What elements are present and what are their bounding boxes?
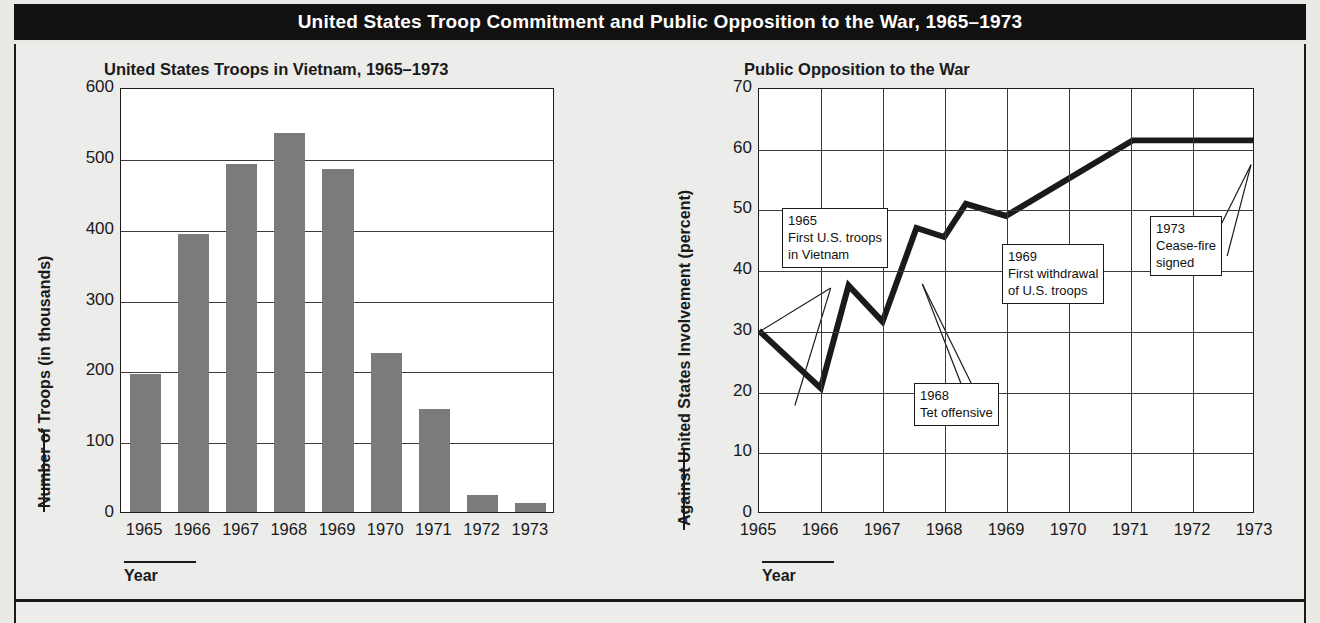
caption-band xyxy=(14,603,1306,623)
annotation-1965-year: 1965 xyxy=(788,212,882,229)
annotation-leader-line xyxy=(795,288,831,405)
annotation-1965-line1: First U.S. troops xyxy=(788,229,882,246)
line-chart-x-tick: 1968 xyxy=(914,520,974,539)
page-title-banner: United States Troop Commitment and Publi… xyxy=(14,4,1306,40)
line-chart-y-axis-label: Against United States Involvement (perce… xyxy=(676,190,694,526)
line-chart-y-tick: 10 xyxy=(698,441,752,461)
bar-chart-x-tick: 1971 xyxy=(409,520,457,539)
bar-chart-x-tick: 1970 xyxy=(361,520,409,539)
bar-chart-y-axis-rule xyxy=(43,430,45,512)
bar-chart-gridline xyxy=(121,160,553,161)
line-chart-y-tick: 40 xyxy=(698,259,752,279)
bar-chart-x-tick: 1966 xyxy=(168,520,216,539)
line-chart-y-tick: 20 xyxy=(698,381,752,401)
annotation-1969: 1969 First withdrawal of U.S. troops xyxy=(1002,244,1104,304)
line-chart-panel: Public Opposition to the War Against Uni… xyxy=(664,48,1310,600)
bar xyxy=(178,234,209,512)
bar-chart-panel: United States Troops in Vietnam, 1965–19… xyxy=(16,48,662,600)
line-chart-x-tick: 1967 xyxy=(852,520,912,539)
line-chart-x-tick: 1971 xyxy=(1100,520,1160,539)
annotation-1968: 1968 Tet offensive xyxy=(914,383,999,426)
line-chart-gridline-h xyxy=(759,453,1253,454)
line-chart-x-axis-rule xyxy=(762,561,834,563)
bar-chart-y-tick: 100 xyxy=(60,431,114,451)
caption-divider xyxy=(14,599,1306,602)
annotation-1973-year: 1973 xyxy=(1156,220,1216,237)
annotation-1973: 1973 Cease-fire signed xyxy=(1150,216,1222,276)
bar xyxy=(371,353,402,512)
line-chart-y-tick: 50 xyxy=(698,198,752,218)
annotation-1969-line1: First withdrawal xyxy=(1008,265,1098,282)
bar-chart-x-tick: 1965 xyxy=(120,520,168,539)
bar xyxy=(322,169,353,512)
line-chart-gridline-h xyxy=(759,393,1253,394)
bar-chart-x-axis-label: Year xyxy=(124,567,158,585)
bar-chart-x-tick: 1973 xyxy=(506,520,554,539)
annotation-1973-line1: Cease-fire xyxy=(1156,237,1216,254)
line-chart-gridline-h xyxy=(759,150,1253,151)
bar xyxy=(467,495,498,512)
bar xyxy=(515,503,546,512)
line-chart-x-tick: 1973 xyxy=(1224,520,1284,539)
bar-chart-y-tick: 200 xyxy=(60,360,114,380)
bar-chart-y-tick: 500 xyxy=(60,148,114,168)
line-chart-x-tick: 1969 xyxy=(976,520,1036,539)
chart-page: United States Troop Commitment and Publi… xyxy=(0,0,1320,623)
bar-chart-title: United States Troops in Vietnam, 1965–19… xyxy=(104,60,449,79)
annotation-1973-line2: signed xyxy=(1156,254,1216,271)
line-chart-x-axis-label: Year xyxy=(762,567,796,585)
line-chart-gridline-v xyxy=(883,89,884,512)
line-chart-x-tick: 1972 xyxy=(1162,520,1222,539)
bar-chart-y-axis-label: Number of Troops (in thousands) xyxy=(36,256,54,508)
bar-chart-y-tick: 400 xyxy=(60,219,114,239)
line-chart-y-tick: 70 xyxy=(698,77,752,97)
bar-chart-x-tick: 1969 xyxy=(313,520,361,539)
bar-chart-x-tick: 1968 xyxy=(265,520,313,539)
line-chart-gridline-v xyxy=(1193,89,1194,512)
line-chart-gridline-v xyxy=(821,89,822,512)
line-chart-title: Public Opposition to the War xyxy=(744,60,970,79)
bar-chart-x-tick: 1967 xyxy=(216,520,264,539)
bar-chart-y-tick: 0 xyxy=(60,502,114,522)
bar-chart-x-tick: 1972 xyxy=(458,520,506,539)
line-chart-gridline-v xyxy=(1131,89,1132,512)
bar xyxy=(226,164,257,513)
bar xyxy=(419,409,450,512)
line-chart-gridline-v xyxy=(945,89,946,512)
annotation-1968-line1: Tet offensive xyxy=(920,404,993,421)
bar-chart-plot-area xyxy=(120,88,554,513)
annotation-1969-year: 1969 xyxy=(1008,248,1098,265)
annotation-1968-year: 1968 xyxy=(920,387,993,404)
annotation-1965-line2: in Vietnam xyxy=(788,246,882,263)
bar-chart-y-tick: 300 xyxy=(60,290,114,310)
line-chart-y-tick: 60 xyxy=(698,138,752,158)
line-chart-y-tick: 0 xyxy=(698,502,752,522)
line-chart-x-tick: 1965 xyxy=(728,520,788,539)
annotation-1965: 1965 First U.S. troops in Vietnam xyxy=(782,208,888,268)
bar xyxy=(130,374,161,512)
line-chart-x-tick: 1966 xyxy=(790,520,850,539)
line-chart-y-tick: 30 xyxy=(698,320,752,340)
line-chart-x-tick: 1970 xyxy=(1038,520,1098,539)
bar-chart-x-axis-rule xyxy=(124,561,196,563)
bar xyxy=(274,133,305,512)
line-chart-y-axis-rule xyxy=(683,448,685,530)
page-title: United States Troop Commitment and Publi… xyxy=(298,11,1023,33)
annotation-1969-line2: of U.S. troops xyxy=(1008,282,1098,299)
line-chart-gridline-h xyxy=(759,332,1253,333)
bar-chart-y-tick: 600 xyxy=(60,77,114,97)
